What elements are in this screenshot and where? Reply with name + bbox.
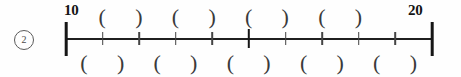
- tick-minor-6: [285, 32, 287, 45]
- answer-slot-bottom-0[interactable]: (: [80, 52, 87, 74]
- answer-slot-bottom-5[interactable]: ): [263, 52, 270, 74]
- answer-slot-top-7[interactable]: ): [355, 6, 362, 28]
- answer-slot-bottom-3[interactable]: ): [190, 52, 197, 74]
- answer-slot-top-3[interactable]: ): [208, 6, 215, 28]
- tick-minor-8: [358, 32, 360, 45]
- answer-slot-bottom-7[interactable]: ): [337, 52, 344, 74]
- answer-slot-bottom-9[interactable]: ): [410, 52, 417, 74]
- tick-endpoint-end: [431, 22, 434, 56]
- tick-minor-1: [102, 32, 104, 45]
- answer-slot-bottom-6[interactable]: (: [300, 52, 307, 74]
- answer-slot-bottom-8[interactable]: (: [373, 52, 380, 74]
- number-line-start-label: 10: [64, 2, 78, 19]
- number-line: 10 20 ()()()() ()()()()(): [66, 0, 432, 77]
- tick-minor-9: [395, 32, 397, 45]
- answer-slot-top-2[interactable]: (: [172, 6, 179, 28]
- tick-minor-7: [321, 32, 323, 45]
- answer-slot-top-6[interactable]: (: [318, 6, 325, 28]
- tick-minor-4: [212, 32, 214, 45]
- item-number-label: 2: [22, 35, 27, 45]
- tick-endpoint-start: [65, 22, 68, 56]
- answer-slot-top-5[interactable]: ): [282, 6, 289, 28]
- tick-minor-3: [175, 32, 177, 45]
- answer-slot-bottom-4[interactable]: (: [227, 52, 234, 74]
- tick-major-midpoint: [248, 29, 250, 48]
- number-line-end-label: 20: [408, 2, 422, 19]
- worksheet-number-line-exercise: 2 10 20 ()()()() ()()()()(): [0, 0, 461, 77]
- answer-slot-top-1[interactable]: ): [135, 6, 142, 28]
- answer-slot-top-0[interactable]: (: [99, 6, 106, 28]
- answer-slot-bottom-1[interactable]: ): [117, 52, 124, 74]
- answer-slot-top-4[interactable]: (: [245, 6, 252, 28]
- answer-slot-bottom-2[interactable]: (: [154, 52, 161, 74]
- circled-item-number: 2: [14, 30, 34, 50]
- tick-minor-2: [138, 32, 140, 45]
